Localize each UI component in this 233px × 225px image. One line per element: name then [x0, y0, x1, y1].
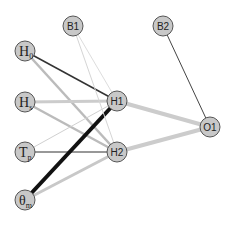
node-label: H1	[111, 96, 124, 107]
network-canvas: H0HsTpθmB1H1H2B2O1	[0, 0, 233, 225]
node-H0: H0	[15, 41, 35, 61]
node-label: B1	[67, 21, 80, 32]
neural-network-diagram: H0HsTpθmB1H1H2B2O1	[0, 0, 233, 225]
edges-layer	[25, 26, 210, 200]
edge-Hs-H1	[25, 101, 117, 102]
node-B1: B1	[63, 16, 83, 36]
node-Hs: Hs	[15, 92, 35, 112]
node-theta_m: θm	[15, 190, 35, 210]
node-label: H2	[111, 147, 124, 158]
edge-H0-H1	[25, 51, 117, 101]
edge-B2-O1	[163, 26, 210, 127]
edge-theta_m-H1	[25, 101, 117, 200]
edge-H1-O1	[117, 101, 210, 127]
edge-H2-O1	[117, 127, 210, 152]
node-B2: B2	[153, 16, 173, 36]
node-label: B2	[157, 21, 170, 32]
node-H1: H1	[107, 91, 127, 111]
node-O1: O1	[200, 117, 220, 137]
edge-theta_m-H2	[25, 152, 117, 200]
node-Tp: Tp	[15, 142, 35, 162]
node-label: O1	[203, 122, 217, 133]
node-H2: H2	[107, 142, 127, 162]
